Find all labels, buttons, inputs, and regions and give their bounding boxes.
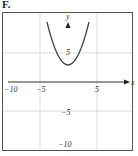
- x-axis-label: x: [130, 78, 135, 87]
- y-axis-label: y: [65, 12, 70, 21]
- x-axis: [8, 80, 130, 85]
- tick-y-neg10: −10: [58, 140, 71, 149]
- tick-x-neg10: −10: [4, 85, 17, 94]
- tick-x-neg5: −5: [36, 85, 45, 94]
- tick-y-5: 5: [66, 48, 70, 57]
- x-axis-arrow-icon: [124, 80, 130, 85]
- parabola-curve: [47, 22, 89, 65]
- y-axis: [66, 22, 71, 28]
- tick-x-5: 5: [95, 85, 99, 94]
- tick-y-neg5: −5: [61, 108, 70, 117]
- parabola-chart: x y −10 −5 5 5 −5 −10: [0, 0, 138, 156]
- y-axis-arrow-icon: [66, 22, 71, 28]
